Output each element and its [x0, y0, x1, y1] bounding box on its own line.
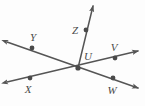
geometry-canvas [0, 0, 145, 106]
point-V [113, 56, 118, 61]
point-W [111, 76, 116, 81]
point-label-W: W [107, 85, 116, 96]
point-U [75, 65, 80, 70]
point-label-V: V [111, 42, 118, 53]
geometry-figure: Y Z U V X W [0, 0, 145, 106]
point-label-Y: Y [30, 32, 36, 43]
point-X [28, 76, 33, 81]
point-label-X: X [25, 84, 32, 95]
lines-group [7, 6, 138, 88]
point-Y [30, 46, 35, 51]
line-YUW [7, 42, 138, 88]
line-XUV [7, 51, 138, 82]
point-Z [84, 28, 89, 33]
point-label-Z: Z [72, 25, 78, 36]
point-label-U: U [84, 51, 92, 62]
